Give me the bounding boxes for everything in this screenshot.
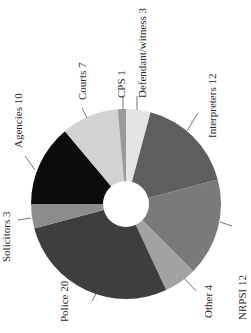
slice-label: Agencies 10 (12, 93, 24, 148)
slice-label: Defendant/witness 3 (136, 7, 148, 98)
leader-line (184, 278, 196, 291)
leader-line (82, 108, 87, 118)
leader-line (25, 156, 35, 170)
slice-label: Interpreters 12 (206, 74, 218, 138)
leader-line (187, 113, 198, 131)
slice-label: Police 20 (58, 280, 70, 322)
leader-line (18, 218, 31, 220)
slice-label: Other 4 (202, 284, 214, 318)
slice-label: Courts 7 (76, 62, 88, 100)
leader-line (220, 222, 232, 226)
donut-hole (103, 181, 149, 227)
donut-chart: Defendant/witness 3Interpreters 12NRPSI … (0, 0, 251, 333)
slice-label: NRPSI 12 (236, 275, 248, 320)
slice-label: CPS 1 (115, 70, 127, 98)
slice-label: Solicitors 3 (0, 211, 12, 262)
